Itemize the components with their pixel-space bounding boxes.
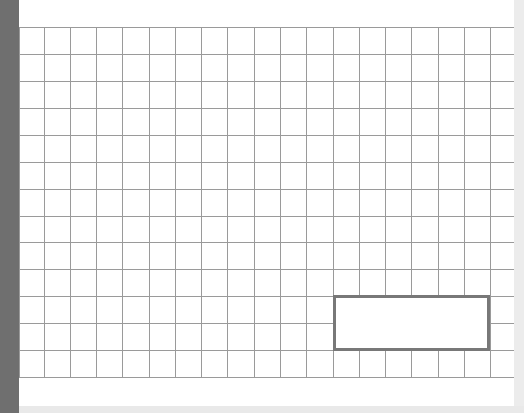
selection-rectangle[interactable] [333, 295, 490, 351]
horizontal-scrollbar[interactable] [19, 406, 524, 413]
vertical-scrollbar[interactable] [514, 0, 524, 413]
grid-lines [0, 0, 524, 413]
